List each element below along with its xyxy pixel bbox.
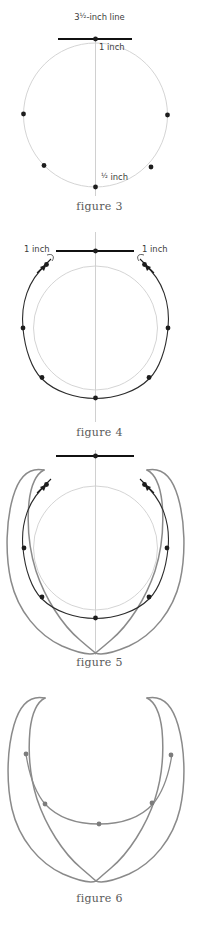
bead-dot — [40, 595, 45, 600]
bead-dot — [142, 262, 147, 267]
bead-dot — [147, 375, 152, 380]
bead-dot — [43, 802, 48, 807]
figure-4-caption: figure 4 — [0, 426, 199, 439]
bead-dot — [93, 185, 98, 190]
figure-5-panel: figure 5 — [0, 450, 199, 682]
bead-dot — [24, 752, 29, 757]
bead-dot — [93, 249, 98, 254]
bead-dot — [169, 753, 174, 758]
bead-dot — [93, 454, 98, 459]
figure-4-right-inch-label: 1 inch — [142, 244, 168, 254]
bead-dot — [93, 37, 98, 42]
figure-3-top-line-label: 3½-inch line — [0, 12, 199, 22]
bead-dot — [22, 546, 27, 551]
figure-6-caption: figure 6 — [0, 892, 199, 905]
figure-4-panel: 1 inch 1 inch figure 4 — [0, 232, 199, 450]
bead-dot — [149, 165, 154, 170]
bead-dot — [165, 113, 170, 118]
bead-dot — [166, 326, 171, 331]
figure-3-half-inch-label: ½ inch — [101, 172, 128, 182]
bead-dot — [42, 163, 47, 168]
bead-dot — [147, 595, 152, 600]
bead-dot — [150, 801, 155, 806]
bead-dot — [93, 396, 98, 401]
bead-dot — [93, 616, 98, 621]
bead-dot — [97, 822, 102, 827]
bead-dot — [21, 326, 26, 331]
figure-5-caption: figure 5 — [0, 656, 199, 669]
bead-dot — [44, 262, 49, 267]
figure-3-caption: figure 3 — [0, 200, 199, 213]
bead-dot — [142, 482, 147, 487]
figure-3-panel: 3½-inch line 1 inch ½ inch figure 3 — [0, 0, 199, 232]
necklace-inner-outline — [29, 698, 162, 881]
figure-sheet: 3½-inch line 1 inch ½ inch figure 3 — [0, 0, 199, 928]
top-line-suffix: -inch line — [86, 12, 124, 22]
half-inch-suffix: inch — [108, 172, 128, 182]
bead-dot — [165, 546, 170, 551]
figure-3-one-inch-label: 1 inch — [99, 42, 125, 52]
half-inch-fraction: ½ — [101, 172, 108, 180]
figure-4-left-inch-label: 1 inch — [24, 244, 50, 254]
figure-6-panel: figure 6 — [0, 682, 199, 928]
bead-dot — [21, 112, 26, 117]
bead-dot — [44, 482, 49, 487]
bead-dot — [40, 375, 45, 380]
